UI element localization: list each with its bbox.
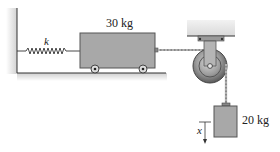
cart xyxy=(80,33,158,73)
pulley-bracket xyxy=(204,41,216,66)
arrow-down-icon xyxy=(203,139,207,144)
cart-wheel-left xyxy=(91,65,99,73)
cart-hook xyxy=(155,48,158,52)
block-mass-label: 20 kg xyxy=(242,114,269,126)
ceiling-support xyxy=(187,20,235,36)
displacement-label: x xyxy=(197,125,202,136)
pulley-axle xyxy=(208,64,213,69)
floor-shading xyxy=(17,73,167,81)
hanging-block xyxy=(214,103,237,137)
cart-body xyxy=(80,33,155,68)
wall-shading xyxy=(6,8,17,74)
cart-wheel-right xyxy=(139,65,147,73)
ceiling-block xyxy=(187,20,235,36)
spring-constant-label: k xyxy=(44,36,49,47)
spring xyxy=(17,48,80,54)
pulley xyxy=(193,36,227,83)
spring-cart-pulley-diagram xyxy=(0,0,280,152)
cart-mass-label: 30 kg xyxy=(106,17,133,29)
block-body xyxy=(214,106,237,137)
pulley-mount-plate xyxy=(198,36,224,41)
